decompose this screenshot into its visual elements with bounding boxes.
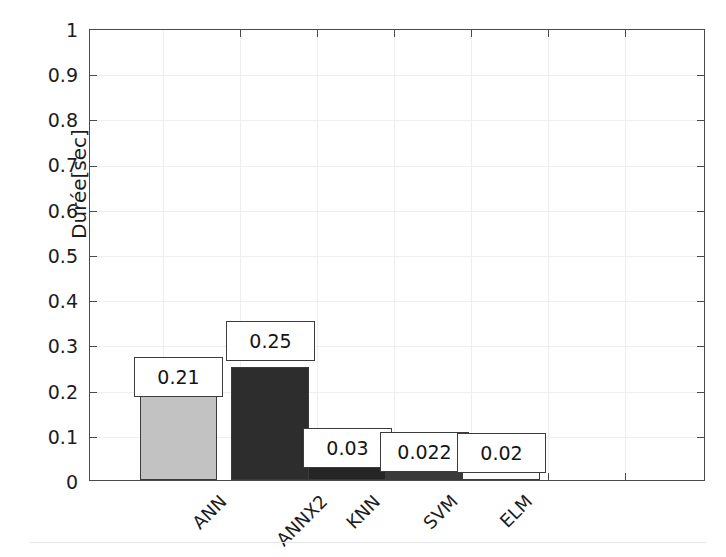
x-tick-label-elm: ELM xyxy=(497,492,536,531)
tick-bottom-7 xyxy=(625,473,626,480)
x-tick-label-knn: KNN xyxy=(343,492,383,532)
gridline-v-svm xyxy=(394,30,395,480)
gridline-h-0.6 xyxy=(90,211,704,212)
tick-top-annx2 xyxy=(240,30,241,37)
tick-left-0.4 xyxy=(90,301,97,302)
gridline-v-7 xyxy=(625,30,626,480)
tick-bottom-6 xyxy=(548,473,549,480)
bar-ann[interactable] xyxy=(140,385,217,480)
scan-artifact-line xyxy=(30,542,706,543)
tick-top-7 xyxy=(625,30,626,37)
y-tick-label-0.3: 0.3 xyxy=(48,337,78,356)
tick-right-0.9 xyxy=(697,75,704,76)
tick-right-0.7 xyxy=(697,166,704,167)
tick-left-0.3 xyxy=(90,346,97,347)
bar-annx2[interactable] xyxy=(231,367,309,480)
gridline-v-knn xyxy=(317,30,318,480)
plot-area: 0.21 0.25 0.03 0.022 0.02 xyxy=(89,29,705,481)
y-tick-label-0.9: 0.9 xyxy=(48,66,78,85)
tick-left-0.9 xyxy=(90,75,97,76)
gridline-h-0.5 xyxy=(90,256,704,257)
gridline-v-elm xyxy=(471,30,472,480)
x-tick-label-annx2: ANNX2 xyxy=(273,492,330,549)
tick-right-0.2 xyxy=(697,392,704,393)
tick-top-svm xyxy=(394,30,395,37)
x-tick-label-ann: ANN xyxy=(189,492,229,532)
tick-left-0.2 xyxy=(90,392,97,393)
gridline-h-0.8 xyxy=(90,120,704,121)
tick-right-0.4 xyxy=(697,301,704,302)
tick-top-6 xyxy=(548,30,549,37)
gridline-h-0.3 xyxy=(90,346,704,347)
gridline-h-0.4 xyxy=(90,301,704,302)
tick-left-0.6 xyxy=(90,211,97,212)
value-label-annx2: 0.25 xyxy=(226,321,315,361)
y-tick-label-0.2: 0.2 xyxy=(48,383,78,402)
tick-top-knn xyxy=(317,30,318,37)
x-tick-label-svm: SVM xyxy=(421,492,462,533)
tick-left-0.5 xyxy=(90,256,97,257)
value-label-knn: 0.03 xyxy=(303,428,392,468)
tick-right-0.3 xyxy=(697,346,704,347)
y-tick-label-0.1: 0.1 xyxy=(48,428,78,447)
bar-chart-figure: 1 0.9 0.8 0.7 0.6 0.5 0.4 0.3 0.2 0.1 0 … xyxy=(0,0,726,557)
tick-left-0.1 xyxy=(90,437,97,438)
bar-knn[interactable] xyxy=(308,466,386,480)
tick-right-0.8 xyxy=(697,120,704,121)
y-tick-label-1: 1 xyxy=(66,21,78,40)
tick-right-0.1 xyxy=(697,437,704,438)
tick-left-0.7 xyxy=(90,166,97,167)
y-tick-label-0: 0 xyxy=(66,473,78,492)
value-label-elm: 0.02 xyxy=(457,433,546,473)
value-label-svm: 0.022 xyxy=(380,432,469,472)
y-axis-tick-labels: 1 0.9 0.8 0.7 0.6 0.5 0.4 0.3 0.2 0.1 0 xyxy=(0,0,84,557)
tick-top-elm xyxy=(471,30,472,37)
tick-right-0.6 xyxy=(697,211,704,212)
tick-left-0.8 xyxy=(90,120,97,121)
gridline-h-0.9 xyxy=(90,75,704,76)
y-axis-title: Durée[sec] xyxy=(67,99,91,269)
value-label-ann: 0.21 xyxy=(134,357,223,397)
gridline-v-6 xyxy=(548,30,549,480)
gridline-h-0.7 xyxy=(90,166,704,167)
y-tick-label-0.4: 0.4 xyxy=(48,292,78,311)
tick-right-0.5 xyxy=(697,256,704,257)
